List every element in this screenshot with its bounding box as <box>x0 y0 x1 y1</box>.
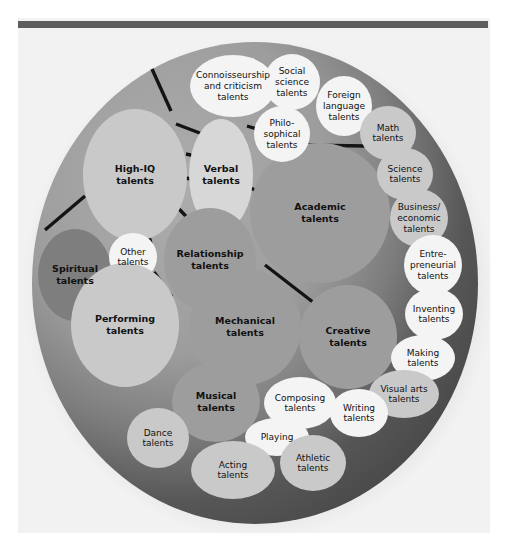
bubble-label-playing: Playing <box>261 432 294 442</box>
bubble-label-verbal: Verbaltalents <box>202 163 240 186</box>
bubble-label-science: Sciencetalents <box>388 163 423 184</box>
bubble-label-other: Othertalents <box>117 246 148 267</box>
bubble-label-musical: Musicaltalents <box>196 390 236 413</box>
bubble-label-academic: Academictalents <box>294 201 345 224</box>
bubble-label-math: Mathtalents <box>372 122 403 143</box>
bubble-label-athletic: Athletictalents <box>296 452 330 473</box>
bubble-label-writing: Writingtalents <box>343 402 375 423</box>
bubble-diagram-canvas: High-IQtalentsVerbaltalentsAcademictalen… <box>0 0 507 546</box>
bubble-label-spiritual: Spiritualtalents <box>52 263 98 286</box>
bubble-diagram: High-IQtalentsVerbaltalentsAcademictalen… <box>0 0 507 546</box>
bubble-label-inventing: Inventingtalents <box>413 303 455 324</box>
bubble-label-foreign-language: Foreignlanguagetalents <box>323 90 365 122</box>
bubble-label-social-science: Socialsciencetalents <box>275 66 309 98</box>
figure-page: High-IQtalentsVerbaltalentsAcademictalen… <box>0 0 507 546</box>
bubble-label-creative: Creativetalents <box>326 325 371 348</box>
bubble-label-acting: Actingtalents <box>217 459 248 480</box>
bubble-label-dance: Dancetalents <box>142 427 173 448</box>
bubble-label-high-iq: High-IQtalents <box>115 163 155 186</box>
bubble-label-making: Makingtalents <box>407 347 439 368</box>
